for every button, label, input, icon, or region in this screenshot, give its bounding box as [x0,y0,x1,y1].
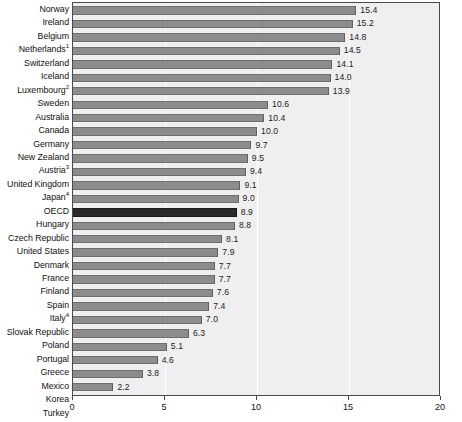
category-label: Slovak Republic [7,326,69,339]
category-label-text: United Kingdom [7,179,69,189]
bar [73,87,329,95]
bar-value-label: 8.1 [226,234,238,245]
x-tick-label: 15 [343,402,353,413]
bar-row: 3.8 [73,367,439,380]
category-label-text: Turkey [43,408,69,418]
bar-row: 9.0 [73,192,439,205]
category-label-text: Ireland [42,17,69,27]
x-tick-mark [72,396,73,400]
bar-row: 9.5 [73,152,439,165]
bar-value-label: 2.2 [117,382,129,393]
category-label: Norway [39,3,69,16]
category-label: Austria3 [39,164,69,177]
category-label-text: New Zealand [18,152,69,162]
bar-row: 7.0 [73,313,439,326]
bar [73,101,268,109]
bar-value-label: 14.8 [349,32,366,43]
category-label: Turkey [43,407,69,420]
bar-value-label: 4.6 [162,355,174,366]
category-label-text: Slovak Republic [7,327,69,337]
bar-value-label: 8.8 [239,220,251,231]
category-label: Portugal [37,353,69,366]
category-label-text: Switzerland [24,58,69,68]
bar-highlight [73,208,237,216]
bar-row: 14.1 [73,58,439,71]
bar-value-label: 7.9 [222,247,234,258]
category-label-text: Hungary [36,219,69,229]
bar [73,383,113,391]
x-tick-label: 5 [161,402,166,413]
category-label: Canada [38,124,69,137]
bar-value-label: 9.4 [250,166,262,177]
bar-chart: 15.415.214.814.514.114.013.910.610.410.0… [0,0,462,422]
footnote-marker: 3 [66,163,69,170]
category-label-text: Australia [35,112,69,122]
bar-value-label: 10.0 [261,126,278,137]
bar [73,222,235,230]
x-axis: 05101520 [72,396,440,420]
bar [73,114,264,122]
plot-area: 15.415.214.814.514.114.013.910.610.410.0… [72,2,440,396]
bar-row: 2.2 [73,381,439,394]
bar [73,289,213,297]
bar-value-label: 7.0 [206,314,218,325]
x-tick-label: 20 [435,402,445,413]
category-label-text: United States [17,246,69,256]
category-label: France [42,272,69,285]
category-label: Hungary [36,218,69,231]
category-label-text: Korea [46,394,69,404]
bar-value-label: 9.5 [252,153,264,164]
bar [73,275,215,283]
bar-row: 8.8 [73,219,439,232]
category-label: Spain [47,299,69,312]
category-label: Czech Republic [8,232,69,245]
bar-row: 8.9 [73,206,439,219]
bar [73,343,167,351]
category-label-text: Italy [50,313,66,323]
category-label-text: Iceland [41,71,69,81]
bar-row: 14.8 [73,31,439,44]
x-tick-mark [348,396,349,400]
bar-row: 14.0 [73,71,439,84]
bar [73,127,257,135]
x-tick-mark [256,396,257,400]
category-label-text: Sweden [38,98,70,108]
bar-row: 15.4 [73,4,439,17]
bar-value-label: 14.0 [335,72,352,83]
bar-row: 9.7 [73,139,439,152]
bar [73,235,222,243]
category-axis-labels: NorwayIrelandBelgiumNetherlands1Switzerl… [0,2,69,396]
category-label: New Zealand [18,151,69,164]
category-label-text: Austria [39,165,66,175]
bar [73,181,240,189]
bar [73,262,215,270]
category-label: Germany [33,138,69,151]
bar-value-label: 14.1 [336,59,353,70]
bar [73,316,202,324]
bar [73,47,340,55]
category-label: Finland [40,285,69,298]
category-label: Italy4 [50,312,69,325]
category-label-text: OECD [44,206,69,216]
category-label: Greece [40,366,69,379]
bar-value-label: 13.9 [333,86,350,97]
category-label-text: Czech Republic [8,233,69,243]
bar [73,356,158,364]
category-label: Ireland [42,16,69,29]
category-label: Iceland [41,70,69,83]
category-label-text: Poland [42,340,69,350]
bar-rows: 15.415.214.814.514.114.013.910.610.410.0… [73,3,439,395]
bar [73,168,246,176]
category-label: Poland [42,339,69,352]
bar-value-label: 10.6 [272,99,289,110]
bar-row: 9.1 [73,179,439,192]
bar [73,154,248,162]
bar-value-label: 9.0 [243,193,255,204]
bar-value-label: 15.4 [360,5,377,16]
category-label: Japan4 [42,191,69,204]
footnote-marker: 4 [66,311,69,318]
category-label: Australia [35,111,69,124]
bar [73,195,239,203]
category-label: Mexico [41,380,69,393]
bar [73,6,356,14]
